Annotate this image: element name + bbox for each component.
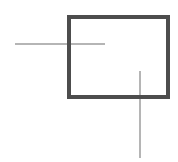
rectangle-outline	[67, 15, 170, 99]
drawing-canvas	[0, 0, 178, 162]
